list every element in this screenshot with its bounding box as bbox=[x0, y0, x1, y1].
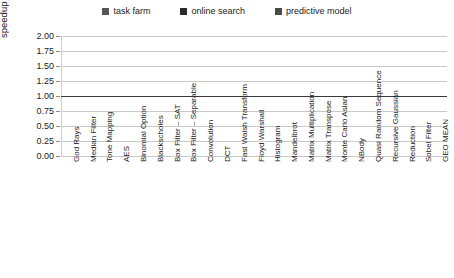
x-tick-label: Box Filter – Separable bbox=[190, 83, 198, 162]
y-tick-label: 2.00 bbox=[20, 32, 54, 41]
y-tick-label: 0.25 bbox=[20, 137, 54, 146]
x-tick-label: Sobel Filter bbox=[425, 122, 433, 162]
legend-item: task farm bbox=[102, 7, 150, 16]
x-tick-label: DCT bbox=[224, 146, 232, 162]
legend-label: predictive model bbox=[286, 7, 352, 16]
x-tick-label: Binomial Option bbox=[140, 106, 148, 162]
y-tick-label: 1.50 bbox=[20, 62, 54, 71]
legend-item: online search bbox=[180, 7, 245, 16]
y-tick-mark bbox=[56, 66, 60, 67]
y-tick-mark bbox=[56, 111, 60, 112]
x-tick-label: Mandelbrot bbox=[291, 122, 299, 162]
x-tick-label: Fast Walsh Transform bbox=[241, 84, 249, 162]
y-tick-label: 0.75 bbox=[20, 107, 54, 116]
x-tick-label: Median Filter bbox=[90, 116, 98, 162]
x-tick-label: Box Filter – SAT bbox=[174, 104, 182, 162]
speedup-bar-chart: task farmonline searchpredictive model s… bbox=[0, 0, 454, 278]
gridline bbox=[61, 156, 447, 157]
x-tick-label: GEO MEAN bbox=[442, 119, 450, 162]
legend-swatch-icon bbox=[102, 8, 109, 15]
y-tick-label: 1.00 bbox=[20, 92, 54, 101]
x-axis-labels: God RaysMedian FilterTone MappingAESBino… bbox=[61, 160, 447, 278]
y-tick-label: 1.75 bbox=[20, 47, 54, 56]
y-tick-mark bbox=[56, 51, 60, 52]
y-tick-mark bbox=[56, 156, 60, 157]
legend-swatch-icon bbox=[275, 8, 282, 15]
y-tick-label: 0.00 bbox=[20, 152, 54, 161]
y-tick-label: 0.50 bbox=[20, 122, 54, 131]
y-tick-label: 1.25 bbox=[20, 77, 54, 86]
y-tick-mark bbox=[56, 81, 60, 82]
x-tick-label: Blackscholes bbox=[157, 115, 165, 162]
chart-legend: task farmonline searchpredictive model bbox=[0, 3, 454, 19]
x-tick-label: God Rays bbox=[73, 126, 81, 162]
y-tick-mark bbox=[56, 141, 60, 142]
x-tick-label: Recursive Gaussian bbox=[392, 90, 400, 162]
x-tick-label: Quasi Random Sequence bbox=[375, 70, 383, 162]
y-axis-title: speedup (over CPU) bbox=[0, 0, 9, 38]
x-tick-label: Convolution bbox=[207, 120, 215, 162]
x-tick-label: Matrix Multiplication bbox=[308, 92, 316, 162]
x-tick-label: Floyd Warshall bbox=[258, 109, 266, 162]
x-tick-label: NBody bbox=[358, 138, 366, 162]
bar-groups bbox=[61, 36, 447, 156]
y-tick-mark bbox=[56, 126, 60, 127]
legend-label: task farm bbox=[113, 7, 150, 16]
x-tick-label: Tone Mapping bbox=[106, 112, 114, 162]
x-tick-label: Reduction bbox=[409, 126, 417, 162]
y-tick-mark bbox=[56, 96, 60, 97]
x-tick-label: Monte Carlo Asian bbox=[341, 97, 349, 162]
x-tick-label: Histogram bbox=[274, 126, 282, 162]
legend-item: predictive model bbox=[275, 7, 352, 16]
x-tick-label: Matrix Transpose bbox=[325, 101, 333, 162]
legend-swatch-icon bbox=[180, 8, 187, 15]
x-tick-label: AES bbox=[123, 146, 131, 162]
legend-label: online search bbox=[191, 7, 245, 16]
y-tick-mark bbox=[56, 36, 60, 37]
